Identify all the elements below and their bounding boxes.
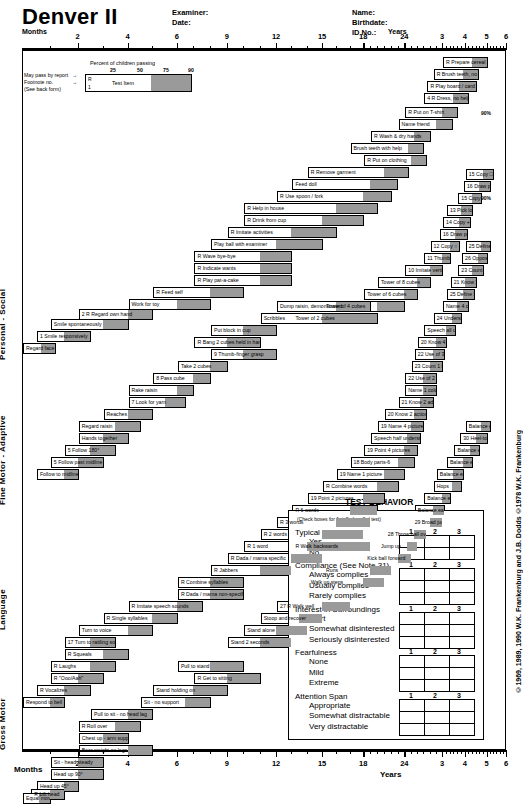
milestone-bar[interactable]: 14 Copy + <box>443 217 471 228</box>
milestone-bar[interactable]: R Prepare cereal <box>443 57 488 68</box>
test-behavior-checkbox-cell[interactable] <box>450 656 475 668</box>
test-behavior-checkbox-cell[interactable] <box>400 699 425 711</box>
milestone-bar[interactable]: 20 Know 4 actions <box>418 337 447 348</box>
test-behavior-checkbox-cell[interactable] <box>400 624 425 636</box>
milestone-bar[interactable]: Take 2 cubes <box>178 361 228 372</box>
milestone-bar[interactable]: R Help in house <box>244 203 378 214</box>
milestone-bar[interactable]: R Brush teeth, no help <box>434 69 479 80</box>
milestone-bar[interactable]: Chest up - arm support <box>79 733 129 744</box>
milestone-bar[interactable]: R Put on T-shirt <box>405 107 458 118</box>
milestone-bar[interactable]: R Jabbers <box>211 565 292 576</box>
milestone-bar[interactable]: 24 Understand 4 prepositions <box>434 313 462 324</box>
test-behavior-checkbox-cell[interactable] <box>450 699 475 711</box>
milestone-bar[interactable]: Sit - no support <box>141 697 211 708</box>
test-behavior-checkbox-cell[interactable] <box>425 656 450 668</box>
milestone-bar[interactable]: R Bang 2 cubes held in hands <box>194 337 260 348</box>
test-behavior-checkbox-cell[interactable] <box>400 612 425 624</box>
test-behavior-checkbox-cell[interactable] <box>425 569 450 581</box>
test-behavior-checkbox-cell[interactable] <box>450 636 475 648</box>
test-behavior-checkbox-cell[interactable] <box>450 723 475 735</box>
milestone-bar[interactable]: R Dada / mama non-specific <box>178 589 244 600</box>
test-behavior-checkbox-cell[interactable] <box>400 581 425 593</box>
milestone-bar[interactable]: R Laughs <box>51 661 116 672</box>
milestone-bar[interactable]: R Put on clothing <box>364 155 427 166</box>
test-behavior-checkbox-cell[interactable] <box>400 656 425 668</box>
milestone-bar[interactable]: R Play board / card games <box>427 81 476 92</box>
milestone-bar[interactable]: 1 Smile responsively <box>37 331 91 342</box>
milestone-bar[interactable]: 15 Copy □ demonst. <box>458 193 482 204</box>
milestone-bar[interactable]: 23 Count 5 blocks <box>458 265 484 276</box>
milestone-bar[interactable]: Speech half understandable <box>371 433 421 444</box>
milestone-bar[interactable]: Name 1 color <box>405 385 436 396</box>
test-behavior-checkbox-cell[interactable] <box>425 593 450 605</box>
milestone-bar[interactable]: R Roll over <box>79 721 141 732</box>
test-behavior-checkbox-cell[interactable] <box>425 612 450 624</box>
milestone-bar[interactable]: Speech all understandable <box>424 325 456 336</box>
test-behavior-checkbox-cell[interactable] <box>400 593 425 605</box>
test-behavior-checkbox-cell[interactable] <box>450 536 475 548</box>
milestone-bar[interactable]: Name 4 colors <box>443 301 469 312</box>
test-behavior-checkbox-cell[interactable] <box>450 581 475 593</box>
milestone-bar[interactable]: R Squeals <box>65 649 129 660</box>
milestone-bar[interactable]: 25 Define 5 words <box>447 289 475 300</box>
milestone-bar[interactable]: 8 Pass cube <box>153 373 211 384</box>
milestone-bar[interactable]: 26 Opposites-2 <box>462 253 488 264</box>
test-behavior-checkbox-cell[interactable] <box>400 569 425 581</box>
milestone-bar[interactable]: 23 Count 1 block <box>412 361 443 372</box>
milestone-bar[interactable]: 19 Point 4 pictures <box>364 445 418 456</box>
milestone-bar[interactable]: R Drink from cup <box>244 215 364 226</box>
test-behavior-checkbox-cell[interactable] <box>425 548 450 560</box>
milestone-bar[interactable]: Balance each foot 3 seconds <box>437 469 464 480</box>
milestone-bar[interactable]: R Indicate wants <box>194 263 292 274</box>
test-behavior-checkbox-cell[interactable] <box>400 680 425 692</box>
test-behavior-checkbox-cell[interactable] <box>450 624 475 636</box>
milestone-bar[interactable]: R Use spoon / fork <box>277 191 392 202</box>
milestone-bar[interactable]: 21 Know 3 adjectives <box>451 277 477 288</box>
milestone-bar[interactable]: Brush teeth with help <box>351 143 425 154</box>
test-behavior-checkbox-cell[interactable] <box>425 581 450 593</box>
milestone-bar[interactable]: 12 Copy ○ <box>431 241 461 252</box>
milestone-bar[interactable]: 4 R Dress, no help <box>424 93 469 104</box>
milestone-bar[interactable]: Pull to stand <box>178 661 244 672</box>
test-behavior-checkbox-cell[interactable] <box>400 723 425 735</box>
milestone-bar[interactable]: R Wave bye-bye <box>194 251 292 262</box>
milestone-bar[interactable]: Rake raisin <box>129 385 195 396</box>
milestone-bar[interactable]: R Get to sitting <box>194 673 260 684</box>
milestone-bar[interactable]: R Feed self <box>153 287 244 298</box>
milestone-bar[interactable]: Head up 90° <box>51 769 104 780</box>
test-behavior-checkbox-cell[interactable] <box>450 680 475 692</box>
milestone-bar[interactable]: R Dada / mama specific <box>228 553 323 564</box>
milestone-bar[interactable]: Stand alone <box>244 625 308 636</box>
milestone-bar[interactable]: 21 Know 2 adjectives <box>399 397 434 408</box>
milestone-bar[interactable]: Turn to voice <box>79 625 154 636</box>
milestone-bar[interactable]: Tower of 8 cubes <box>378 277 431 288</box>
milestone-bar[interactable]: 10 Imitate vertical line <box>405 265 443 276</box>
milestone-bar[interactable]: Name friend <box>399 119 453 130</box>
test-behavior-checkbox-cell[interactable] <box>450 668 475 680</box>
milestone-bar[interactable]: 22 Use of 3 objects <box>415 349 445 360</box>
milestone-bar[interactable]: Smile spontaneously <box>51 319 129 330</box>
milestone-bar[interactable]: R Single syllables <box>104 613 178 624</box>
milestone-bar[interactable]: 22 Use of 2 objects <box>405 373 436 384</box>
milestone-bar[interactable]: Feed doll <box>292 179 398 190</box>
test-behavior-checkbox-cell[interactable] <box>425 668 450 680</box>
milestone-bar[interactable]: R "Ooo/Aah" <box>51 673 104 684</box>
milestone-bar[interactable]: 11 Thumb wiggle <box>424 253 450 264</box>
milestone-bar[interactable]: Follow to midline <box>37 469 79 480</box>
milestone-bar[interactable]: 16 Draw person 3 parts <box>440 229 468 240</box>
test-behavior-checkbox-cell[interactable] <box>450 612 475 624</box>
milestone-bar[interactable]: 19 Name 1 picture <box>337 469 406 480</box>
milestone-bar[interactable]: Balance each foot 6 seconds <box>466 421 491 432</box>
milestone-bar[interactable]: Stand 2 seconds <box>228 637 293 648</box>
milestone-bar[interactable]: 16 Draw person 6 parts <box>464 181 491 192</box>
milestone-bar[interactable]: Hops <box>434 481 462 492</box>
milestone-bar[interactable]: Regard raisin <box>79 421 141 432</box>
milestone-bar[interactable]: R Combine words <box>323 481 398 492</box>
milestone-bar[interactable]: R Imitate speech sounds <box>129 601 203 612</box>
test-behavior-checkbox-cell[interactable] <box>450 593 475 605</box>
test-behavior-checkbox-cell[interactable] <box>425 624 450 636</box>
milestone-bar[interactable]: Balance each foot 5 seconds <box>454 445 480 456</box>
milestone-bar[interactable]: R Imitate activities <box>228 227 337 238</box>
milestone-bar[interactable]: 25 Define 7 words <box>466 241 491 252</box>
milestone-bar[interactable]: R Play pat-a-cake <box>194 275 292 286</box>
